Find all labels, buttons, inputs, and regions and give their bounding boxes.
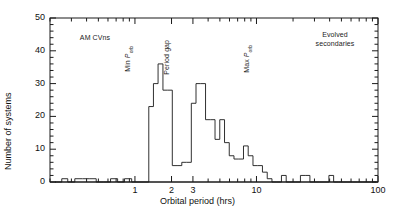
figure-container: Number of systems Orbital period (hrs) A… bbox=[0, 0, 406, 214]
annotation-min-porb: Min Porb bbox=[124, 46, 133, 72]
annotation-period-gap: Period gap bbox=[163, 40, 172, 75]
y-tick-label: 10 bbox=[16, 143, 45, 153]
annotation-max-porb-var: P bbox=[243, 52, 250, 57]
y-tick-label: 30 bbox=[16, 78, 45, 88]
x-tick-label: 3 bbox=[179, 185, 207, 195]
annotation-min-porb-var: P bbox=[124, 53, 131, 58]
annotation-am-cvns: AM CVns bbox=[64, 34, 126, 43]
annotation-max-porb: Max Porb bbox=[243, 45, 252, 73]
x-tick-label: 1 bbox=[121, 185, 149, 195]
annotation-evolved-line2: secondaries bbox=[316, 40, 355, 47]
annotation-max-porb-sub: orb bbox=[247, 45, 253, 53]
x-axis-title: Orbital period (hrs) bbox=[160, 196, 235, 206]
x-tick-label: 10 bbox=[242, 185, 270, 195]
x-tick-label: 100 bbox=[364, 185, 392, 195]
y-tick-label: 40 bbox=[16, 45, 45, 55]
annotation-min-porb-prefix: Min bbox=[124, 58, 131, 72]
annotation-evolved-secondaries: Evolvedsecondaries bbox=[303, 31, 367, 49]
y-axis-title: Number of systems bbox=[3, 92, 13, 170]
y-tick-label: 20 bbox=[16, 110, 45, 120]
y-tick-label: 0 bbox=[16, 176, 45, 186]
y-tick-label: 50 bbox=[16, 12, 45, 22]
annotation-min-porb-sub: orb bbox=[128, 46, 134, 54]
histogram-outline bbox=[55, 64, 376, 182]
annotation-evolved-line1: Evolved bbox=[322, 31, 348, 38]
annotation-max-porb-prefix: Max bbox=[243, 57, 250, 73]
